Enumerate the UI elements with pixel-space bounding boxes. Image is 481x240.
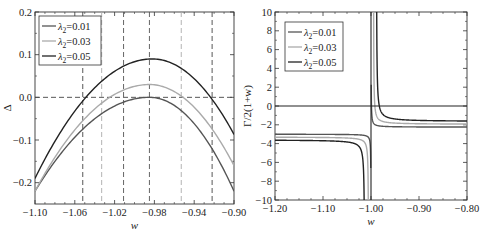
x-tick-label: −1.06 bbox=[63, 207, 87, 218]
y-tick-label: 0 bbox=[267, 101, 272, 112]
y-tick-label: 8 bbox=[267, 25, 272, 36]
x-tick-label: −0.94 bbox=[182, 207, 207, 218]
y-tick-label: 0.2 bbox=[19, 7, 32, 18]
y-tick-label: 6 bbox=[267, 44, 272, 55]
legend: λ2=0.01λ2=0.03λ2=0.05 bbox=[285, 22, 343, 71]
x-axis-label: w bbox=[131, 219, 139, 231]
y-tick-label: 4 bbox=[267, 63, 273, 74]
series-line-right-branch bbox=[377, 0, 468, 121]
x-tick-label: −1.00 bbox=[359, 203, 383, 214]
y-tick-label: −4 bbox=[261, 138, 273, 149]
series-line bbox=[35, 97, 234, 191]
x-tick-label: −0.80 bbox=[455, 203, 479, 214]
series-line-right-branch bbox=[374, 12, 468, 125]
chart-canvas: −1.10−1.06−1.02−0.98−0.94−0.90−0.2−0.10.… bbox=[0, 0, 481, 240]
y-tick-label: −0.1 bbox=[13, 135, 32, 146]
right-chart-panel: −1.20−1.10−1.00−0.90−0.80−10−8−6−4−20246… bbox=[241, 0, 479, 227]
x-tick-label: −0.98 bbox=[142, 207, 166, 218]
x-tick-label: −0.90 bbox=[222, 207, 246, 218]
legend: λ2=0.01λ2=0.03λ2=0.05 bbox=[39, 16, 101, 65]
x-tick-label: −1.10 bbox=[23, 207, 47, 218]
y-axis-label: Δ bbox=[1, 104, 13, 111]
x-tick-label: −1.02 bbox=[102, 207, 126, 218]
y-tick-label: −0.2 bbox=[13, 177, 32, 188]
y-axis-label: Γ/2(1+w) bbox=[241, 85, 254, 127]
y-tick-label: −6 bbox=[261, 157, 272, 168]
y-tick-label: −10 bbox=[256, 195, 272, 206]
left-chart-panel: −1.10−1.06−1.02−0.98−0.94−0.90−0.2−0.10.… bbox=[1, 7, 246, 232]
figure: −1.10−1.06−1.02−0.98−0.94−0.90−0.2−0.10.… bbox=[0, 0, 481, 240]
x-tick-label: −0.90 bbox=[407, 203, 431, 214]
x-tick-label: −1.10 bbox=[311, 203, 335, 214]
y-tick-label: 2 bbox=[267, 82, 272, 93]
y-tick-label: 0.0 bbox=[19, 92, 32, 103]
y-tick-label: −8 bbox=[261, 176, 272, 187]
x-axis-label: w bbox=[367, 215, 375, 227]
y-tick-label: 10 bbox=[262, 7, 273, 18]
y-tick-label: −2 bbox=[261, 119, 272, 130]
y-tick-label: 0.1 bbox=[19, 49, 32, 60]
